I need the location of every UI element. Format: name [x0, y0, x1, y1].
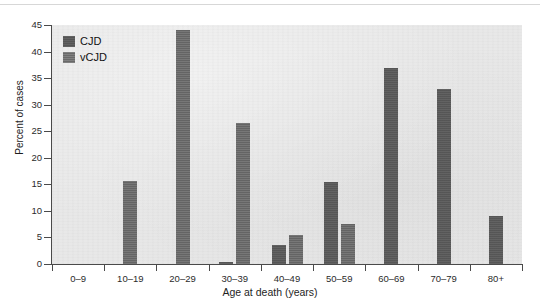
legend-label-cjd: CJD	[80, 36, 101, 47]
x-axis-tick	[156, 265, 157, 271]
y-axis-tick	[44, 131, 51, 132]
y-axis-tick-label: 35	[2, 73, 42, 83]
legend-swatch-cjd-icon	[63, 36, 75, 47]
bar-chart-figure: Percent of cases 051015202530354045 CJD …	[0, 0, 540, 300]
y-axis-tick-label: 15	[2, 179, 42, 189]
y-axis-tick	[44, 52, 51, 53]
y-axis-tick-label: 5	[2, 232, 42, 242]
x-axis-line	[51, 264, 523, 265]
bar-cjd	[384, 68, 398, 265]
bar-cjd	[272, 245, 286, 264]
bar-vcjd	[176, 30, 190, 264]
y-axis-labels: 051015202530354045	[0, 0, 42, 300]
y-axis-tick	[44, 264, 51, 265]
bar-vcjd	[236, 123, 250, 264]
x-axis-tick-label: 60–69	[365, 274, 417, 284]
bar-cjd	[219, 262, 233, 264]
x-axis-title: Age at death (years)	[0, 286, 540, 298]
y-axis-tick-label: 25	[2, 126, 42, 136]
bars-layer	[52, 25, 522, 264]
y-axis-tick-label: 0	[2, 259, 42, 269]
x-axis-tick-label: 70–79	[418, 274, 470, 284]
y-axis-tick-label: 40	[2, 47, 42, 57]
bar-cjd	[437, 89, 451, 264]
x-axis-tick	[52, 265, 53, 271]
y-axis-tick	[44, 105, 51, 106]
bar-vcjd	[341, 224, 355, 264]
y-axis-tick	[44, 184, 51, 185]
x-axis-tick-label: 10–19	[104, 274, 156, 284]
x-axis-tick	[261, 265, 262, 271]
x-axis-tick-label: 50–59	[313, 274, 365, 284]
y-axis-tick	[44, 158, 51, 159]
x-axis-tick	[418, 265, 419, 271]
y-axis-tick	[44, 25, 51, 26]
legend-item-vcjd: vCJD	[63, 51, 107, 64]
bar-vcjd	[289, 235, 303, 264]
y-axis-tick	[44, 78, 51, 79]
x-axis-tick	[313, 265, 314, 271]
legend-item-cjd: CJD	[63, 35, 107, 48]
y-axis-tick-label: 20	[2, 153, 42, 163]
x-axis-tick	[522, 265, 523, 271]
bar-vcjd	[123, 181, 137, 264]
x-axis-tick	[104, 265, 105, 271]
x-axis-tick-label: 20–29	[156, 274, 208, 284]
y-axis-tick	[44, 211, 51, 212]
legend-swatch-vcjd-icon	[63, 52, 75, 63]
y-axis-tick-label: 10	[2, 206, 42, 216]
y-axis-tick-label: 30	[2, 100, 42, 110]
plot-area: CJD vCJD	[52, 25, 522, 264]
x-axis-tick-label: 80+	[470, 274, 522, 284]
x-axis-tick-label: 0–9	[52, 274, 104, 284]
bar-cjd	[324, 182, 338, 264]
y-axis-tick-label: 45	[2, 20, 42, 30]
legend-label-vcjd: vCJD	[80, 52, 107, 63]
y-axis-tick	[44, 237, 51, 238]
x-axis-tick	[365, 265, 366, 271]
x-axis-tick-label: 40–49	[261, 274, 313, 284]
x-axis-tick	[209, 265, 210, 271]
bar-cjd	[489, 216, 503, 264]
x-axis-tick-label: 30–39	[209, 274, 261, 284]
chart-legend: CJD vCJD	[63, 35, 107, 67]
x-axis-tick	[470, 265, 471, 271]
